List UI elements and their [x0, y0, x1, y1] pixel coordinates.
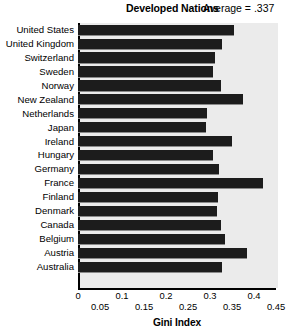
bar-row [78, 121, 276, 135]
x-axis-title: Gini Index [78, 317, 276, 328]
category-label: Austria [0, 246, 76, 260]
category-label: Switzerland [0, 51, 76, 65]
category-label: United States [0, 23, 76, 37]
bar-row [78, 51, 276, 65]
bar [78, 80, 221, 90]
bar [78, 192, 218, 202]
bar-row [78, 148, 276, 162]
bar [78, 178, 263, 188]
bar [78, 66, 213, 76]
bar [78, 206, 217, 216]
category-label: Ireland [0, 135, 76, 149]
bar-row [78, 260, 276, 274]
category-label: United Kingdom [0, 37, 76, 51]
bar [78, 39, 222, 49]
average-annotation: Average = .337 [203, 2, 274, 14]
category-label: Belgium [0, 232, 76, 246]
category-label: Japan [0, 121, 76, 135]
category-label: France [0, 176, 76, 190]
bar [78, 262, 222, 272]
category-label: Denmark [0, 204, 76, 218]
category-label: Germany [0, 162, 76, 176]
category-label: Hungary [0, 148, 76, 162]
x-tick-label: 0.45 [267, 301, 285, 312]
bar [78, 122, 206, 132]
bar-row [78, 246, 276, 260]
bar-row [78, 107, 276, 121]
category-label: New Zealand [0, 93, 76, 107]
bar-row [78, 93, 276, 107]
category-label: Finland [0, 190, 76, 204]
x-axis-tick-labels: 00.10.20.30.40.050.150.250.350.45 [0, 290, 286, 316]
bar-row [78, 37, 276, 51]
bar-row [78, 190, 276, 204]
x-tick-label: 0.25 [179, 301, 197, 312]
bar-row [78, 23, 276, 37]
bar [78, 248, 247, 258]
bar-row [78, 79, 276, 93]
category-label: Netherlands [0, 107, 76, 121]
bar-row [78, 135, 276, 149]
bar-row [78, 65, 276, 79]
chart-header: Developed Nations Average = .337 [0, 0, 286, 22]
bar [78, 234, 225, 244]
bar-row [78, 162, 276, 176]
bar-row [78, 218, 276, 232]
category-label: Canada [0, 218, 76, 232]
bar [78, 136, 232, 146]
bar-series [78, 23, 276, 288]
x-tick-label: 0.15 [135, 301, 153, 312]
bar-row [78, 204, 276, 218]
x-tick-label: 0 [75, 290, 80, 301]
bar [78, 52, 215, 62]
x-tick-label: 0.05 [91, 301, 109, 312]
bar-row [78, 232, 276, 246]
category-axis-labels: United StatesUnited KingdomSwitzerlandSw… [0, 23, 76, 288]
category-label: Norway [0, 79, 76, 93]
bar [78, 25, 234, 35]
bar [78, 94, 243, 104]
gini-index-bar-chart: Developed Nations Average = .337 United … [0, 0, 286, 336]
x-tick-label: 0.3 [203, 290, 216, 301]
category-label: Sweden [0, 65, 76, 79]
bar [78, 108, 207, 118]
bar [78, 220, 221, 230]
bar-row [78, 176, 276, 190]
x-tick-label: 0.35 [223, 301, 241, 312]
bar [78, 150, 213, 160]
category-label: Australia [0, 260, 76, 274]
bar [78, 164, 219, 174]
x-tick-label: 0.1 [115, 290, 128, 301]
x-tick-label: 0.4 [247, 290, 260, 301]
x-tick-label: 0.2 [159, 290, 172, 301]
